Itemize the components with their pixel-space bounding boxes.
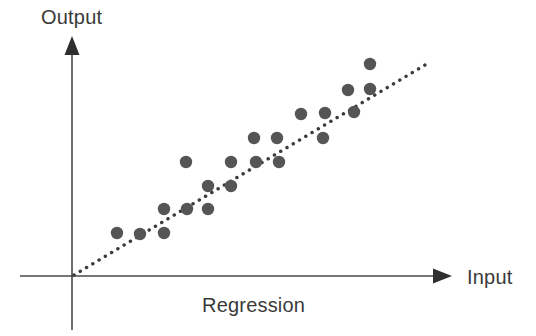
scatter-point <box>111 227 123 239</box>
regression-trendline <box>74 62 430 275</box>
scatter-point <box>181 203 193 215</box>
scatter-point <box>158 227 170 239</box>
plot-canvas <box>0 0 536 336</box>
scatter-point <box>271 132 283 144</box>
scatter-point <box>364 83 376 95</box>
x-axis-arrowhead <box>433 269 452 284</box>
scatter-point <box>180 156 192 168</box>
scatter-point <box>348 106 360 118</box>
scatter-point <box>317 132 329 144</box>
scatter-point <box>225 180 237 192</box>
scatter-point <box>202 180 214 192</box>
regression-scatter-figure: Output Input Regression <box>0 0 536 336</box>
scatter-point <box>295 108 307 120</box>
scatter-point <box>158 203 170 215</box>
scatter-point <box>134 228 146 240</box>
scatter-point <box>364 58 376 70</box>
scatter-point-group <box>111 58 376 240</box>
scatter-point <box>202 203 214 215</box>
x-axis-label: Input <box>467 266 512 289</box>
scatter-point <box>342 84 354 96</box>
y-axis-arrowhead <box>65 36 80 55</box>
scatter-point <box>250 156 262 168</box>
scatter-point <box>273 156 285 168</box>
y-axis-label: Output <box>41 6 102 29</box>
scatter-point <box>319 107 331 119</box>
scatter-point <box>248 132 260 144</box>
scatter-point <box>225 156 237 168</box>
figure-caption: Regression <box>202 294 305 317</box>
